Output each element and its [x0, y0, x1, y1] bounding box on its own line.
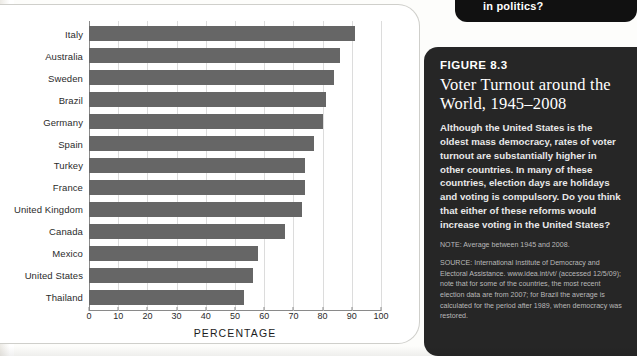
bar-category-label: United States — [25, 270, 83, 281]
bar-row: Mexico — [89, 246, 381, 261]
bar-row: United States — [89, 268, 381, 283]
bar — [89, 26, 355, 41]
bar-category-label: Mexico — [52, 248, 83, 259]
bar-row: Canada — [89, 224, 381, 239]
x-axis-ticks: 0102030405060708090100 — [89, 311, 381, 325]
bar-category-label: France — [53, 182, 83, 193]
bar — [89, 92, 326, 107]
bar — [89, 268, 253, 283]
bar-category-label: Italy — [65, 28, 83, 39]
bar-category-label: Germany — [43, 116, 83, 127]
bar-category-label: Australia — [45, 50, 83, 61]
chart-card: ItalyAustraliaSwedenBrazilGermanySpainTu… — [0, 4, 420, 344]
bar — [89, 114, 323, 129]
bar-category-label: Turkey — [54, 160, 83, 171]
bar-row: Turkey — [89, 158, 381, 173]
bar-rows: ItalyAustraliaSwedenBrazilGermanySpainTu… — [89, 21, 381, 311]
x-tick-label: 10 — [113, 311, 123, 321]
bar — [89, 290, 244, 305]
page-background: ItalyAustraliaSwedenBrazilGermanySpainTu… — [0, 0, 637, 356]
x-tick-label: 90 — [347, 311, 357, 321]
figure-note: NOTE: Average between 1945 and 2008. — [440, 240, 623, 251]
figure-source: SOURCE: International Institute of Democ… — [440, 258, 623, 322]
bar-category-label: Sweden — [48, 72, 83, 83]
top-callout-text: in politics? — [483, 0, 543, 12]
bar — [89, 70, 334, 85]
x-tick-label: 70 — [288, 311, 298, 321]
bar-row: France — [89, 180, 381, 195]
bar — [89, 158, 305, 173]
x-tick-label: 0 — [86, 311, 91, 321]
figure-title: Voter Turnout around the World, 1945–200… — [440, 75, 623, 113]
figure-body-text: Although the United States is the oldest… — [440, 121, 623, 231]
gridline — [381, 21, 382, 311]
x-tick-label: 20 — [142, 311, 152, 321]
bar — [89, 224, 285, 239]
bar — [89, 180, 305, 195]
x-tick-label: 30 — [172, 311, 182, 321]
plot-area: ItalyAustraliaSwedenBrazilGermanySpainTu… — [89, 21, 381, 311]
bar-category-label: Spain — [58, 138, 83, 149]
bar — [89, 202, 302, 217]
bar-row: Sweden — [89, 70, 381, 85]
figure-number: FIGURE 8.3 — [440, 59, 623, 71]
bar-row: Italy — [89, 26, 381, 41]
bar-row: Brazil — [89, 92, 381, 107]
bar-chart: ItalyAustraliaSwedenBrazilGermanySpainTu… — [0, 5, 420, 345]
bar — [89, 136, 314, 151]
x-tick-label: 80 — [318, 311, 328, 321]
bar-row: Thailand — [89, 290, 381, 305]
figure-panel: FIGURE 8.3 Voter Turnout around the Worl… — [424, 47, 637, 356]
bar-category-label: Canada — [49, 226, 83, 237]
bar-category-label: Thailand — [46, 292, 83, 303]
bar-row: United Kingdom — [89, 202, 381, 217]
top-callout-box: in politics? — [455, 0, 637, 22]
bar — [89, 246, 258, 261]
x-tick-label: 50 — [230, 311, 240, 321]
bar-row: Germany — [89, 114, 381, 129]
bar — [89, 48, 340, 63]
bar-row: Australia — [89, 48, 381, 63]
bar-row: Spain — [89, 136, 381, 151]
bar-category-label: United Kingdom — [14, 204, 83, 215]
x-tick-label: 100 — [373, 311, 388, 321]
x-tick-label: 40 — [201, 311, 211, 321]
bar-category-label: Brazil — [59, 94, 83, 105]
x-tick-label: 60 — [259, 311, 269, 321]
x-axis-title: PERCENTAGE — [89, 327, 381, 339]
